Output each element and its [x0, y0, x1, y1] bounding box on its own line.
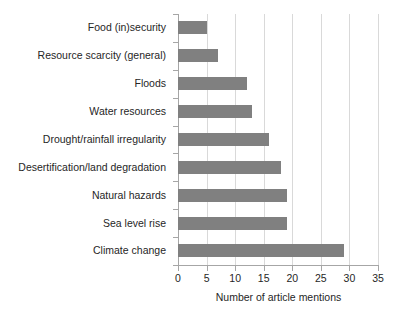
x-axis-tick: [207, 266, 208, 271]
category-label: Desertification/land degradation: [18, 162, 166, 173]
bar[interactable]: [178, 77, 247, 90]
category-label: Natural hazards: [92, 190, 166, 201]
category-label: Floods: [134, 78, 166, 89]
x-axis-tick-label: 30: [335, 272, 363, 284]
x-axis-tick-label: 5: [193, 272, 221, 284]
bar[interactable]: [178, 189, 287, 202]
bar[interactable]: [178, 49, 218, 62]
bar-slot: [178, 70, 378, 98]
x-axis-tick-label: 35: [364, 272, 392, 284]
y-axis-category-labels: Food (in)securityResource scarcity (gene…: [0, 14, 172, 265]
x-axis-tick: [235, 266, 236, 271]
plot-area: [178, 14, 378, 265]
bar-slot: [178, 237, 378, 265]
y-axis-tick: [173, 70, 178, 71]
category-label: Food (in)security: [88, 22, 166, 33]
bar[interactable]: [178, 21, 207, 34]
bar[interactable]: [178, 105, 252, 118]
bar-slot: [178, 14, 378, 42]
bar-slot: [178, 98, 378, 126]
category-label: Sea level rise: [103, 218, 166, 229]
bar-slot: [178, 126, 378, 154]
y-axis-tick: [173, 98, 178, 99]
x-axis-tick: [378, 266, 379, 271]
bars-container: [178, 14, 378, 265]
x-axis-tick-label: 0: [164, 272, 192, 284]
bar-slot: [178, 181, 378, 209]
category-label-row: Water resources: [0, 98, 172, 126]
bar[interactable]: [178, 133, 269, 146]
y-axis-tick: [173, 209, 178, 210]
bar[interactable]: [178, 161, 281, 174]
bar-slot: [178, 42, 378, 70]
y-axis-tick: [173, 181, 178, 182]
y-axis-tick: [173, 14, 178, 15]
category-label-row: Resource scarcity (general): [0, 42, 172, 70]
bar[interactable]: [178, 244, 344, 257]
category-label-row: Floods: [0, 70, 172, 98]
category-label-row: Food (in)security: [0, 14, 172, 42]
x-axis-tick-label: 25: [307, 272, 335, 284]
y-axis-tick: [173, 153, 178, 154]
x-axis-tick: [178, 266, 179, 271]
x-axis-tick: [292, 266, 293, 271]
bar[interactable]: [178, 217, 287, 230]
category-label: Drought/rainfall irregularity: [43, 134, 166, 145]
x-axis-tick: [321, 266, 322, 271]
bar-slot: [178, 153, 378, 181]
y-axis-tick: [173, 42, 178, 43]
category-label: Climate change: [93, 245, 166, 256]
x-axis-tick: [349, 266, 350, 271]
category-label-row: Sea level rise: [0, 209, 172, 237]
category-label-row: Natural hazards: [0, 181, 172, 209]
category-label-row: Desertification/land degradation: [0, 153, 172, 181]
x-axis-title: Number of article mentions: [178, 291, 379, 304]
category-label: Resource scarcity (general): [38, 50, 166, 61]
bar-slot: [178, 209, 378, 237]
gridline-35: [378, 14, 379, 265]
x-axis-tick: [264, 266, 265, 271]
category-label-row: Drought/rainfall irregularity: [0, 126, 172, 154]
y-axis-tick: [173, 237, 178, 238]
category-label: Water resources: [89, 106, 166, 117]
x-axis-tick-label: 10: [221, 272, 249, 284]
x-axis-tick-label: 20: [278, 272, 306, 284]
x-axis-tick-label: 15: [250, 272, 278, 284]
category-label-row: Climate change: [0, 237, 172, 265]
y-axis-tick: [173, 126, 178, 127]
bar-chart-figure: Food (in)securityResource scarcity (gene…: [0, 0, 402, 313]
